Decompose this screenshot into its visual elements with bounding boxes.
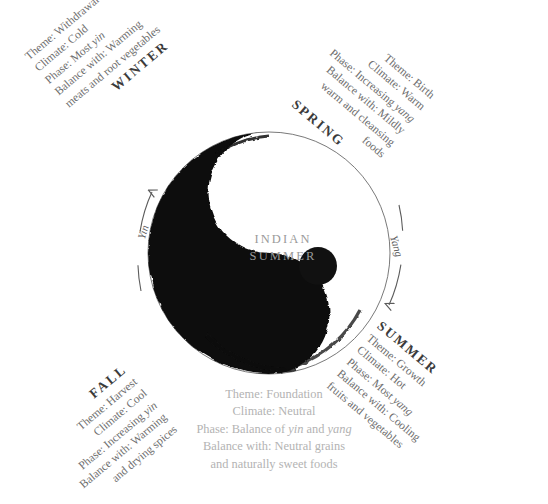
- indian-summer-line-5: and naturally sweet foods: [154, 456, 394, 473]
- yin-eye-dot: [219, 197, 257, 235]
- yin-yang-seasons-diagram: INDIAN SUMMER Yin Yang Theme: Withdrawal…: [0, 0, 548, 504]
- center-label-line2: SUMMER: [228, 248, 336, 265]
- indian-summer-line-2: Climate: Neutral: [154, 403, 394, 420]
- center-label: INDIAN SUMMER: [228, 231, 336, 265]
- indian-summer-line-1: Theme: Foundation: [154, 386, 394, 403]
- season-block-winter: Theme: Withdrawal Climate: Cold Phase: M…: [22, 0, 175, 125]
- indian-summer-description: Theme: Foundation Climate: Neutral Phase…: [154, 386, 394, 473]
- indian-summer-line-3: Phase: Balance of yin and yang: [154, 421, 394, 438]
- indian-summer-line-4: Balance with: Neutral grains: [154, 438, 394, 455]
- center-label-line1: INDIAN: [228, 231, 336, 248]
